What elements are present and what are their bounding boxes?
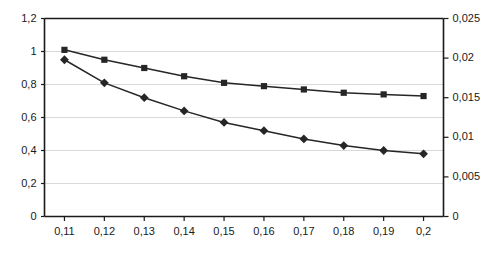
data-point-marker — [301, 86, 307, 92]
y-axis-left-tick-label: 1,2 — [0, 13, 37, 24]
y-axis-right-tick-label: 0,02 — [453, 52, 474, 63]
data-point-marker — [381, 91, 387, 97]
data-point-marker — [61, 47, 67, 53]
data-point-marker — [181, 73, 187, 79]
x-axis-tick-label: 0,16 — [242, 226, 286, 237]
y-axis-right-tick-label: 0,025 — [453, 13, 481, 24]
x-axis-tick-label: 0,13 — [122, 226, 166, 237]
y-axis-left-tick-label: 0 — [0, 211, 37, 222]
x-axis-tick-label: 0,15 — [202, 226, 246, 237]
x-axis-tick-label: 0,11 — [42, 226, 86, 237]
x-axis-tick-label: 0,18 — [322, 226, 366, 237]
chart-container: 00,20,40,60,811,200,0050,010,0150,020,02… — [0, 0, 502, 254]
y-axis-right-tick-label: 0,01 — [453, 131, 474, 142]
y-axis-right-tick-label: 0 — [453, 211, 459, 222]
y-axis-left-tick-label: 0,6 — [0, 112, 37, 123]
chart-plot-area — [0, 0, 502, 254]
x-axis-tick-label: 0,14 — [162, 226, 206, 237]
x-axis-tick-label: 0,19 — [362, 226, 406, 237]
data-point-marker — [341, 90, 347, 96]
data-point-marker — [420, 93, 426, 99]
x-axis-tick-label: 0,12 — [82, 226, 126, 237]
y-axis-left-tick-label: 0,2 — [0, 178, 37, 189]
data-point-marker — [141, 65, 147, 71]
y-axis-left-tick-label: 0,8 — [0, 79, 37, 90]
data-point-marker — [261, 83, 267, 89]
x-axis-tick-label: 0,17 — [282, 226, 326, 237]
y-axis-left-tick-label: 1 — [0, 46, 37, 57]
data-point-marker — [221, 80, 227, 86]
y-axis-right-tick-label: 0,015 — [453, 92, 481, 103]
y-axis-left-tick-label: 0,4 — [0, 145, 37, 156]
y-axis-right-tick-label: 0,005 — [453, 171, 481, 182]
data-point-marker — [101, 57, 107, 63]
x-axis-tick-label: 0,2 — [402, 226, 446, 237]
